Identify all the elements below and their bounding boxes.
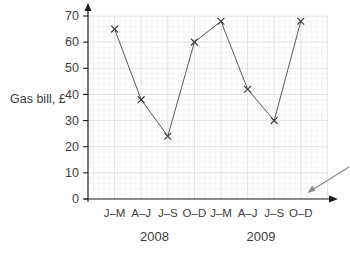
y-tick-label-50: 50 bbox=[65, 61, 79, 75]
pointer-arrow bbox=[308, 167, 350, 193]
x-tick-label-3: O–D bbox=[183, 207, 207, 219]
x-tick-label-5: A–J bbox=[238, 207, 258, 219]
y-tick-label-60: 60 bbox=[65, 35, 79, 49]
x-tick-label-4: J–M bbox=[210, 207, 232, 219]
x-tick-label-2: J–S bbox=[158, 207, 178, 219]
gas-bill-chart-figure: 010203040506070 Gas bill, £ 2008 2009 J–… bbox=[0, 0, 350, 256]
y-axis-ticks: 010203040506070 bbox=[65, 9, 88, 206]
x-tick-label-6: J–S bbox=[264, 207, 284, 219]
year-label-2008: 2008 bbox=[140, 229, 169, 244]
grid-major-lines bbox=[88, 16, 327, 199]
axis-labels: Gas bill, £ 2008 2009 J–MA–JJ–SO–DJ–MA–J… bbox=[10, 92, 313, 244]
x-tick-label-1: A–J bbox=[131, 207, 151, 219]
x-tick-label-0: J–M bbox=[104, 207, 126, 219]
y-tick-label-10: 10 bbox=[65, 166, 79, 180]
y-axis-title: Gas bill, £ bbox=[10, 92, 66, 106]
year-label-2009: 2009 bbox=[246, 229, 275, 244]
y-tick-label-70: 70 bbox=[65, 9, 79, 23]
y-tick-label-20: 20 bbox=[65, 140, 79, 154]
gas-bill-line-chart: 010203040506070 Gas bill, £ 2008 2009 J–… bbox=[0, 0, 350, 256]
grid-minor-lines bbox=[88, 16, 327, 199]
y-tick-label-0: 0 bbox=[72, 192, 79, 206]
y-tick-label-30: 30 bbox=[65, 114, 79, 128]
y-tick-label-40: 40 bbox=[65, 88, 79, 102]
x-tick-label-7: O–D bbox=[289, 207, 313, 219]
